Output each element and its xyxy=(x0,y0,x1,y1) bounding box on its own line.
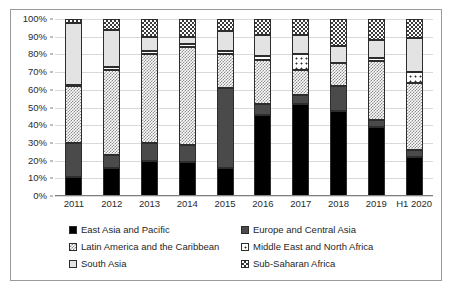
x-tick-label: 2013 xyxy=(131,199,169,209)
legend-item[interactable]: East Asia and Pacific xyxy=(69,225,170,235)
bar-segment-lac[interactable] xyxy=(103,70,120,155)
bar-segment-lac[interactable] xyxy=(368,61,385,119)
bar-segment-eap[interactable] xyxy=(65,177,82,196)
stacked-bar[interactable] xyxy=(179,19,196,196)
bar-segment-sa[interactable] xyxy=(330,46,347,64)
bar-segment-ssa[interactable] xyxy=(368,19,385,40)
bar-segment-sa[interactable] xyxy=(179,37,196,44)
stacked-bar[interactable] xyxy=(254,19,271,196)
legend-item[interactable]: Middle East and North Africa xyxy=(241,242,373,252)
bar-segment-eca[interactable] xyxy=(368,120,385,127)
bar-segment-mena[interactable] xyxy=(368,58,385,62)
bar-segment-sa[interactable] xyxy=(141,37,158,51)
stacked-bar[interactable] xyxy=(330,19,347,196)
bar-segment-ssa[interactable] xyxy=(254,19,271,35)
bar-segment-eca[interactable] xyxy=(292,95,309,104)
bar-segment-ssa[interactable] xyxy=(292,19,309,35)
bar-segment-lac[interactable] xyxy=(292,70,309,95)
bar-segment-eca[interactable] xyxy=(217,88,234,168)
bar-segment-eap[interactable] xyxy=(406,157,423,196)
bar-segment-ssa[interactable] xyxy=(330,19,347,46)
bar-group[interactable] xyxy=(254,19,271,196)
bar-segment-mena[interactable] xyxy=(254,56,271,60)
bar-segment-lac[interactable] xyxy=(179,47,196,144)
bar-segment-lac[interactable] xyxy=(65,86,82,143)
stacked-bar[interactable] xyxy=(103,19,120,196)
bar-segment-eap[interactable] xyxy=(254,115,271,196)
bar-segment-eap[interactable] xyxy=(103,168,120,196)
bar-segment-sa[interactable] xyxy=(254,35,271,56)
bar-segment-mena[interactable] xyxy=(65,84,82,86)
stacked-bar[interactable] xyxy=(217,19,234,196)
bar-segment-lac[interactable] xyxy=(141,54,158,143)
legend-label: East Asia and Pacific xyxy=(81,225,170,235)
bar-segment-ssa[interactable] xyxy=(103,19,120,30)
y-tick-label: 80% xyxy=(28,50,47,60)
bar-segment-sa[interactable] xyxy=(406,38,423,72)
bar-segment-mena[interactable] xyxy=(217,51,234,55)
bar-segment-eap[interactable] xyxy=(292,104,309,196)
legend-swatch-sa xyxy=(69,260,77,268)
legend-item[interactable]: Europe and Central Asia xyxy=(241,225,356,235)
stacked-bar[interactable] xyxy=(141,19,158,196)
bar-segment-mena[interactable] xyxy=(141,51,158,55)
bar-segment-eap[interactable] xyxy=(330,111,347,196)
bar-segment-eap[interactable] xyxy=(141,161,158,196)
bar-group[interactable] xyxy=(179,19,196,196)
y-tick-label: 90% xyxy=(28,32,47,42)
legend-item[interactable]: Latin America and the Caribbean xyxy=(69,242,219,252)
bar-segment-lac[interactable] xyxy=(330,63,347,86)
legend-item[interactable]: Sub-Saharan Africa xyxy=(241,259,335,269)
bar-segment-eca[interactable] xyxy=(330,86,347,111)
bar-segment-ssa[interactable] xyxy=(179,19,196,37)
y-tick-mark xyxy=(50,54,53,55)
y-tick-label: 100% xyxy=(23,14,47,24)
legend-label: Latin America and the Caribbean xyxy=(81,242,219,252)
bar-segment-lac[interactable] xyxy=(217,54,234,88)
bar-segment-sa[interactable] xyxy=(65,23,82,85)
bar-group[interactable] xyxy=(330,19,347,196)
stacked-bar[interactable] xyxy=(368,19,385,196)
bar-segment-ssa[interactable] xyxy=(141,19,158,37)
bar-segment-sa[interactable] xyxy=(103,30,120,67)
chart-legend: East Asia and PacificLatin America and t… xyxy=(69,225,414,275)
bar-group[interactable] xyxy=(292,19,309,196)
stacked-bar[interactable] xyxy=(406,19,423,196)
bar-segment-lac[interactable] xyxy=(254,60,271,104)
legend-item[interactable]: South Asia xyxy=(69,259,126,269)
bar-segment-mena[interactable] xyxy=(292,54,309,70)
stacked-bar[interactable] xyxy=(292,19,309,196)
bar-segment-eap[interactable] xyxy=(179,162,196,196)
bar-segment-sa[interactable] xyxy=(368,40,385,58)
bar-segment-sa[interactable] xyxy=(292,35,309,54)
bar-segment-eap[interactable] xyxy=(368,127,385,196)
bar-group[interactable] xyxy=(103,19,120,196)
bar-segment-eap[interactable] xyxy=(217,168,234,196)
legend-swatch-mena xyxy=(241,243,249,251)
bar-segment-lac[interactable] xyxy=(406,83,423,150)
bar-group[interactable] xyxy=(141,19,158,196)
bar-segment-mena[interactable] xyxy=(406,72,423,83)
stacked-bar[interactable] xyxy=(65,19,82,196)
bar-segment-ssa[interactable] xyxy=(217,19,234,31)
bar-group[interactable] xyxy=(368,19,385,196)
bar-segment-mena[interactable] xyxy=(103,67,120,71)
bar-group[interactable] xyxy=(65,19,82,196)
x-axis-tick-labels: 201120122013201420152016201720182019H1 2… xyxy=(55,199,433,215)
bar-segment-ssa[interactable] xyxy=(406,19,423,38)
y-tick-mark xyxy=(50,36,53,37)
bar-segment-ssa[interactable] xyxy=(65,19,82,23)
bar-segment-eca[interactable] xyxy=(103,155,120,167)
bar-group[interactable] xyxy=(217,19,234,196)
bar-group[interactable] xyxy=(406,19,423,196)
bar-segment-eca[interactable] xyxy=(254,104,271,115)
bar-segment-eca[interactable] xyxy=(406,150,423,157)
bar-segment-eca[interactable] xyxy=(179,145,196,163)
bar-segment-sa[interactable] xyxy=(217,31,234,50)
bars-layer xyxy=(55,19,433,196)
bar-segment-eca[interactable] xyxy=(65,143,82,177)
y-tick-mark xyxy=(50,72,53,73)
bar-segment-mena[interactable] xyxy=(179,44,196,48)
legend-label: Middle East and North Africa xyxy=(253,242,373,252)
bar-segment-eca[interactable] xyxy=(141,143,158,161)
